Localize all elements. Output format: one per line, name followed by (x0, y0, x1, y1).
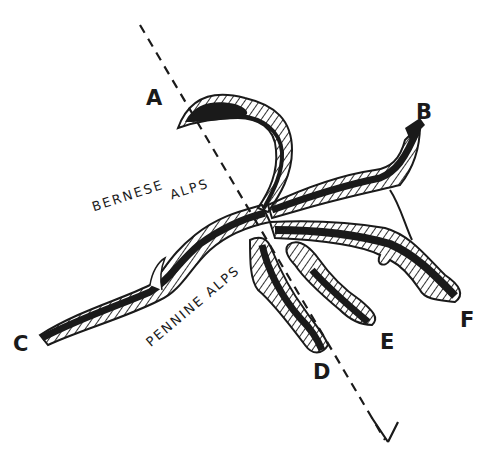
label-point-a: A (146, 86, 162, 110)
label-point-e: E (380, 330, 394, 354)
label-point-c: C (13, 332, 28, 356)
glacier-map (0, 0, 489, 458)
diagram-canvas: A B C D E F BERNESE ALPS PENNINE ALPS (0, 0, 489, 458)
label-point-f: F (460, 308, 474, 332)
label-point-d: D (313, 360, 330, 384)
glacier-b (268, 118, 425, 218)
label-point-b: B (416, 100, 432, 124)
